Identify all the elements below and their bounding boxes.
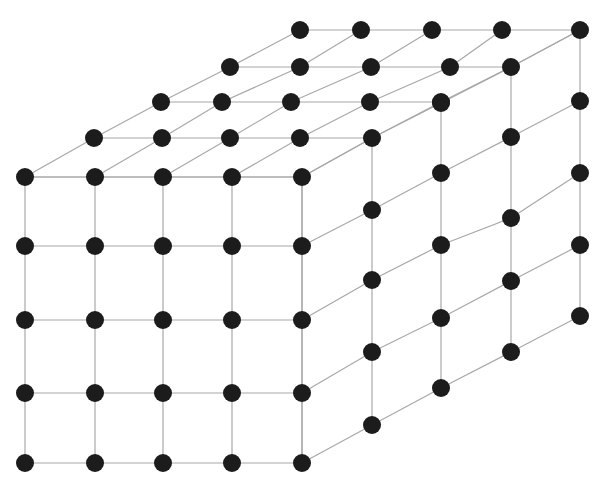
top-edge: [94, 102, 161, 138]
top-edge: [230, 102, 291, 138]
right-edge: [441, 218, 511, 245]
lattice-node: [571, 164, 589, 182]
lattice-node: [86, 311, 104, 329]
lattice-node: [362, 58, 380, 76]
lattice-node: [502, 343, 520, 361]
right-edge: [511, 173, 580, 218]
lattice-node: [502, 128, 520, 146]
lattice-node: [86, 237, 104, 255]
right-edge: [372, 173, 441, 210]
right-edge: [372, 103, 441, 138]
lattice-node: [223, 384, 241, 402]
right-edge: [302, 425, 372, 463]
lattice-node: [441, 58, 459, 76]
lattice-node: [293, 384, 311, 402]
top-edge: [300, 30, 361, 67]
right-edge: [511, 30, 580, 67]
lattice-node: [363, 201, 381, 219]
right-edge: [302, 352, 372, 393]
lattice-node: [291, 129, 309, 147]
lattice-node: [154, 237, 172, 255]
right-edge: [302, 280, 372, 320]
lattice-node: [85, 129, 103, 147]
lattice-node: [432, 164, 450, 182]
right-edge: [302, 138, 372, 177]
lattice-node: [361, 93, 379, 111]
right-edge: [511, 245, 580, 281]
lattice-node: [154, 384, 172, 402]
lattice-node: [571, 236, 589, 254]
right-edge: [441, 352, 511, 388]
lattice-node: [571, 307, 589, 325]
right-edge: [441, 281, 511, 318]
lattice-node: [291, 58, 309, 76]
lattice-node: [152, 93, 170, 111]
lattice-node: [571, 21, 589, 39]
lattice-node: [432, 94, 450, 112]
top-edge: [371, 30, 432, 67]
lattice-node: [16, 237, 34, 255]
lattice-node: [223, 311, 241, 329]
right-edge: [511, 101, 580, 137]
lattice-node: [502, 209, 520, 227]
top-edge: [163, 138, 230, 177]
lattice-node: [293, 168, 311, 186]
lattice-node: [86, 384, 104, 402]
top-edge: [162, 102, 222, 138]
lattice-node: [293, 237, 311, 255]
top-edge: [232, 138, 300, 177]
lattice-node: [363, 129, 381, 147]
top-edge: [95, 138, 162, 177]
lattice-node: [291, 21, 309, 39]
lattice-node: [352, 21, 370, 39]
lattice-node: [363, 343, 381, 361]
lattice-cube-diagram: [0, 0, 602, 504]
lattice-node: [154, 168, 172, 186]
top-edge: [300, 102, 370, 138]
lattice-node: [432, 309, 450, 327]
right-edge: [372, 388, 441, 425]
lattice-node: [153, 129, 171, 147]
lattice-node: [502, 58, 520, 76]
lattice-node: [223, 454, 241, 472]
top-edge: [230, 30, 300, 67]
right-edge: [441, 137, 511, 173]
right-edge: [302, 210, 372, 246]
lattice-node: [16, 384, 34, 402]
lattice-node: [293, 454, 311, 472]
lattice-node: [221, 129, 239, 147]
lattice-node: [432, 236, 450, 254]
lattice-node: [293, 311, 311, 329]
lattice-node: [432, 379, 450, 397]
lattice-node: [223, 237, 241, 255]
lattice-node: [363, 416, 381, 434]
right-edge: [511, 316, 580, 352]
lattice-node: [223, 168, 241, 186]
right-edge: [372, 245, 441, 280]
lattice-node: [571, 92, 589, 110]
lattice-node: [154, 311, 172, 329]
lattice-node: [502, 272, 520, 290]
lattice-node: [16, 168, 34, 186]
right-edge: [372, 318, 441, 352]
lattice-node: [86, 168, 104, 186]
lattice-node: [16, 454, 34, 472]
lattice-node: [363, 271, 381, 289]
lattice-node: [221, 58, 239, 76]
top-edge: [25, 138, 94, 177]
lattice-node: [282, 93, 300, 111]
lattice-node: [493, 21, 511, 39]
top-edge: [450, 30, 502, 67]
lattice-node: [86, 454, 104, 472]
lattice-node: [16, 311, 34, 329]
lattice-node: [213, 93, 231, 111]
lattice-node: [423, 21, 441, 39]
lattice-node: [154, 454, 172, 472]
